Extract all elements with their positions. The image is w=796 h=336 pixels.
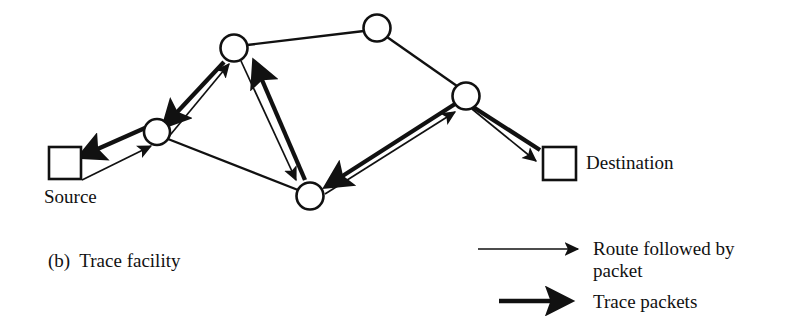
router-node-d [453,83,480,110]
trace-b-to-a [167,62,224,123]
trace-facility-diagram [0,0,796,336]
router-node-b [221,35,248,62]
figure-caption: (b) Trace facility [48,250,180,272]
route-b-to-e [241,61,296,180]
source-node [49,147,81,179]
route-e-to-d [325,112,455,194]
link-c-d [387,37,457,86]
trace-a-to-source [84,128,145,155]
router-node-c [364,15,391,42]
router-node-e [297,183,324,210]
trace-d-to-e [330,104,455,184]
route-d-to-destination [472,109,536,161]
legend [478,249,578,301]
router-node-a [144,119,170,145]
plain-links [168,31,457,190]
source-label: Source [44,186,97,208]
link-a-e [168,139,298,190]
route-a-to-b [166,64,229,140]
destination-node [543,147,576,180]
legend-trace-label: Trace packets [593,291,697,313]
legend-route-label: Route followed by packet [593,238,734,283]
destination-label: Destination [586,152,674,174]
router-nodes [144,15,480,210]
link-b-c [247,31,364,45]
trace-d-to-destination-stub [470,105,540,150]
trace-e-to-b [256,66,305,180]
